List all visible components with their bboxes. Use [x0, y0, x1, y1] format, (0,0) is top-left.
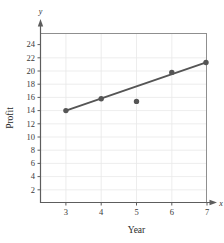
y-tick-label: 2	[31, 185, 35, 195]
data-point	[203, 60, 208, 65]
y-tick-label: 18	[27, 79, 36, 89]
scatter-plot-figure: 2 4 6 8 10 12 14 16 18 20 22 24 3 4 5 6 …	[0, 0, 224, 243]
data-point	[134, 99, 139, 104]
x-tick-label: 4	[99, 207, 104, 217]
y-tick-label: 6	[31, 158, 35, 168]
y-tick-label: 20	[27, 66, 36, 76]
y-axis-title: Profit	[5, 107, 15, 129]
x-tick-labels: 3 4 5 6 7	[64, 207, 209, 217]
x-axis-title: Year	[128, 225, 146, 235]
x-tick-label: 3	[64, 207, 68, 217]
y-axis-variable-label: y	[38, 7, 43, 16]
chart-canvas: 2 4 6 8 10 12 14 16 18 20 22 24 3 4 5 6 …	[0, 0, 224, 243]
data-point	[63, 108, 68, 113]
data-point	[169, 70, 174, 75]
y-tick-label: 4	[31, 171, 36, 181]
y-tick-label: 22	[27, 53, 36, 63]
x-axis-variable-label: x	[218, 199, 223, 208]
y-tick-labels: 2 4 6 8 10 12 14 16 18 20 22 24	[27, 39, 36, 194]
x-tick-label: 6	[170, 207, 174, 217]
y-tick-label: 24	[27, 39, 36, 49]
x-axis-arrowhead-icon	[210, 200, 218, 205]
y-tick-label: 8	[31, 145, 35, 155]
plot-background	[40, 33, 207, 203]
x-tick-label: 7	[205, 207, 209, 217]
y-tick-label: 12	[27, 119, 36, 129]
data-point	[99, 96, 104, 101]
x-tick-label: 5	[134, 207, 138, 217]
y-tick-label: 14	[27, 105, 36, 115]
y-tick-label: 10	[27, 132, 36, 142]
y-axis-arrowhead-icon	[38, 19, 43, 27]
y-tick-label: 16	[27, 92, 36, 102]
